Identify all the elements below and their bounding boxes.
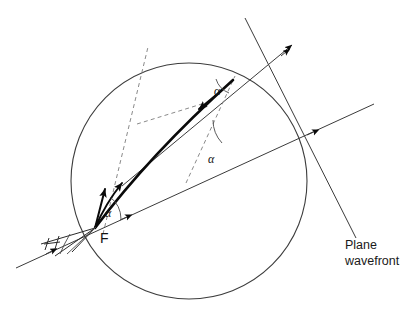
angle-arc-icon-middle — [213, 120, 222, 143]
wavefront-ray-lower — [16, 104, 374, 268]
arrowhead-icon-lower-ray-left — [46, 250, 54, 254]
dashed-helper-segment — [137, 103, 205, 124]
sphere-boundary-circle — [71, 63, 307, 299]
figure-root: F α α α Plane wavefront — [0, 0, 412, 316]
wavefront-refraction-diagram: F α α α Plane wavefront — [0, 0, 412, 316]
angle-label-bottom: α — [105, 206, 112, 220]
angle-label-top: α — [214, 84, 221, 98]
angle-label-middle: α — [208, 152, 215, 166]
plane-wavefront-caption-line2: wavefront — [344, 254, 400, 268]
wedge-arc-outer — [67, 227, 96, 254]
focus-label: F — [100, 230, 109, 246]
plane-wavefront-line — [245, 18, 356, 238]
arrowhead-icon-lower-ray-right — [307, 131, 316, 135]
plane-wavefront-caption-line1: Plane — [345, 238, 377, 252]
arrowhead-icon-curve-top — [199, 96, 215, 109]
